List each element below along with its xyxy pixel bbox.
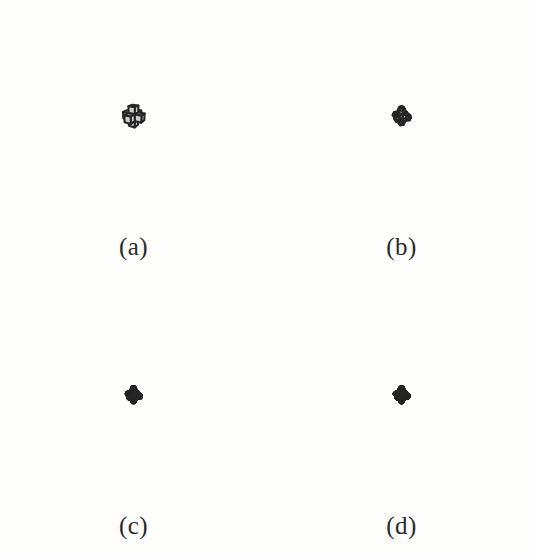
- figure-panel-a: (a): [0, 0, 267, 279]
- mesh-group: [393, 106, 412, 125]
- mesh-face: [396, 117, 399, 120]
- panel-label-a: (a): [0, 232, 267, 262]
- mesh-group: [123, 105, 145, 128]
- mesh-face: [406, 116, 409, 119]
- mesh-face: [400, 108, 403, 111]
- mesh-face: [129, 397, 130, 398]
- panel-label-d: (d): [268, 511, 535, 541]
- subdivision-render-b: [268, 0, 535, 240]
- figure-panel-b: (b): [268, 0, 535, 279]
- figure-panel-c: (c): [0, 279, 267, 558]
- mesh-group: [393, 386, 410, 404]
- subdivision-render-d: [268, 279, 535, 519]
- panel-label-b: (b): [268, 232, 535, 262]
- mesh-face: [124, 115, 131, 124]
- figure-panel-d: (d): [268, 279, 535, 558]
- mesh-group: [125, 386, 142, 404]
- subdivision-render-a: [0, 0, 267, 240]
- mesh-face: [133, 388, 134, 389]
- panel-label-c: (c): [0, 511, 267, 541]
- subdivision-render-c: [0, 279, 267, 519]
- mesh-face: [139, 396, 140, 397]
- figure-sheet: (a) (b) (c) (d): [0, 0, 535, 558]
